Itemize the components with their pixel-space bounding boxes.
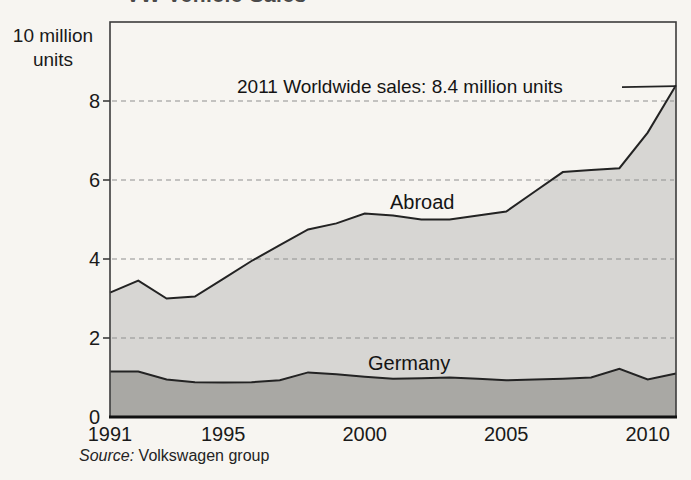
y-tick-label-2: 2 — [56, 328, 100, 348]
x-tick-label-2005: 2005 — [484, 423, 529, 446]
series-label-abroad: Abroad — [390, 191, 455, 214]
scanned-chart-page: VW Vehicle Sales 10 million units 2011 W… — [0, 0, 691, 480]
source-text: Volkswagen group — [134, 447, 269, 464]
y-axis-title-line2: units — [4, 48, 102, 72]
x-tick-label-1995: 1995 — [201, 423, 246, 446]
x-tick-label-2000: 2000 — [342, 423, 387, 446]
chart-title-text: VW Vehicle Sales — [126, 0, 356, 5]
source-prefix: Source: — [79, 447, 134, 464]
y-tick-label-8: 8 — [56, 91, 100, 111]
x-tick-label-2010: 2010 — [625, 423, 670, 446]
series-label-germany: Germany — [368, 352, 450, 375]
x-tick-label-1991: 1991 — [88, 423, 133, 446]
annotation-pointer-line — [622, 86, 676, 87]
y-axis-title-line1: 10 million — [4, 24, 102, 48]
y-tick-label-6: 6 — [56, 170, 100, 190]
source-line: Source: Volkswagen group — [79, 447, 269, 465]
y-axis-title: 10 million units — [4, 24, 102, 72]
y-tick-label-4: 4 — [56, 249, 100, 269]
chart-title-clipped: VW Vehicle Sales — [126, 0, 356, 5]
